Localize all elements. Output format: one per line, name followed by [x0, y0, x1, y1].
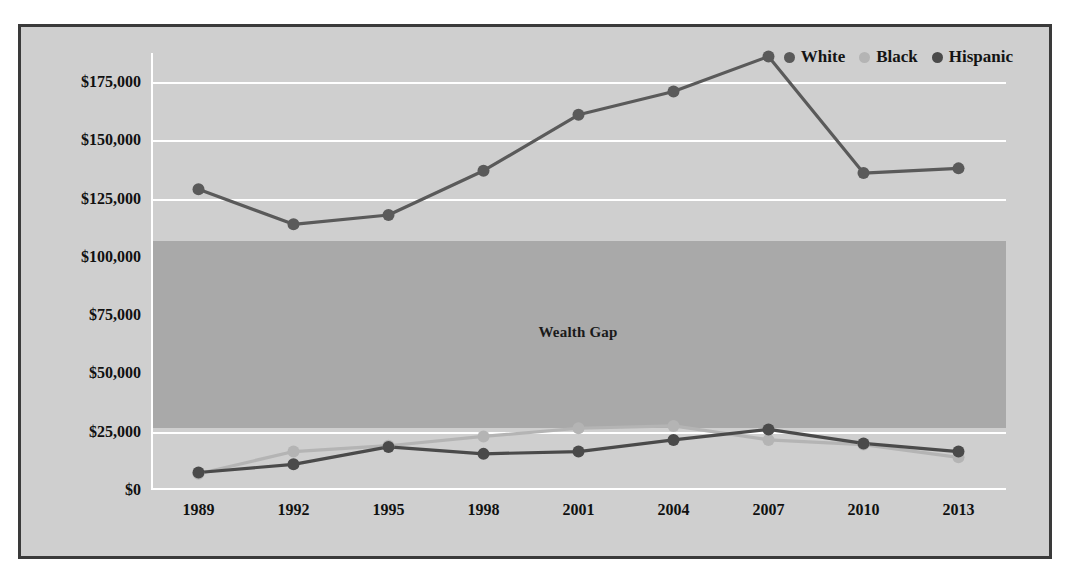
data-point-white[interactable]	[668, 85, 680, 97]
data-point-white[interactable]	[858, 167, 870, 179]
data-point-hispanic[interactable]	[668, 434, 680, 446]
data-point-black[interactable]	[573, 422, 585, 434]
data-point-hispanic[interactable]	[478, 448, 490, 460]
y-tick-label: $50,000	[89, 364, 141, 382]
plot-area: Wealth Gap	[151, 53, 1006, 490]
y-tick-label: $125,000	[81, 190, 141, 208]
data-point-black[interactable]	[288, 446, 300, 458]
y-tick-label: $175,000	[81, 73, 141, 91]
y-tick-label: $0	[125, 481, 141, 499]
y-axis-labels: $0$25,000$50,000$75,000$100,000$125,000$…	[21, 53, 141, 490]
data-point-hispanic[interactable]	[858, 437, 870, 449]
data-point-white[interactable]	[193, 183, 205, 195]
data-point-white[interactable]	[573, 109, 585, 121]
x-tick-label: 1992	[278, 501, 310, 519]
data-point-black[interactable]	[668, 420, 680, 432]
x-tick-label: 2010	[848, 501, 880, 519]
data-point-black[interactable]	[763, 434, 775, 446]
data-point-white[interactable]	[763, 50, 775, 62]
data-point-hispanic[interactable]	[763, 423, 775, 435]
y-tick-label: $100,000	[81, 248, 141, 266]
x-tick-label: 1995	[373, 501, 405, 519]
x-tick-label: 2001	[563, 501, 595, 519]
data-point-black[interactable]	[478, 430, 490, 442]
series-line-white	[199, 56, 959, 224]
data-point-hispanic[interactable]	[573, 446, 585, 458]
data-point-hispanic[interactable]	[953, 446, 965, 458]
x-axis-labels: 198919921995199820012004200720102013	[151, 497, 1006, 527]
x-tick-label: 1989	[183, 501, 215, 519]
data-point-white[interactable]	[953, 162, 965, 174]
data-point-hispanic[interactable]	[383, 441, 395, 453]
x-tick-label: 2004	[658, 501, 690, 519]
x-tick-label: 2013	[943, 501, 975, 519]
y-tick-label: $25,000	[89, 423, 141, 441]
data-point-hispanic[interactable]	[288, 458, 300, 470]
data-point-white[interactable]	[478, 165, 490, 177]
y-tick-label: $150,000	[81, 131, 141, 149]
x-tick-label: 2007	[753, 501, 785, 519]
chart-figure: WhiteBlackHispanic $0$25,000$50,000$75,0…	[18, 24, 1052, 559]
x-tick-label: 1998	[468, 501, 500, 519]
data-point-white[interactable]	[383, 209, 395, 221]
series-lines	[151, 53, 1006, 490]
y-tick-label: $75,000	[89, 306, 141, 324]
data-point-hispanic[interactable]	[193, 467, 205, 479]
data-point-white[interactable]	[288, 218, 300, 230]
